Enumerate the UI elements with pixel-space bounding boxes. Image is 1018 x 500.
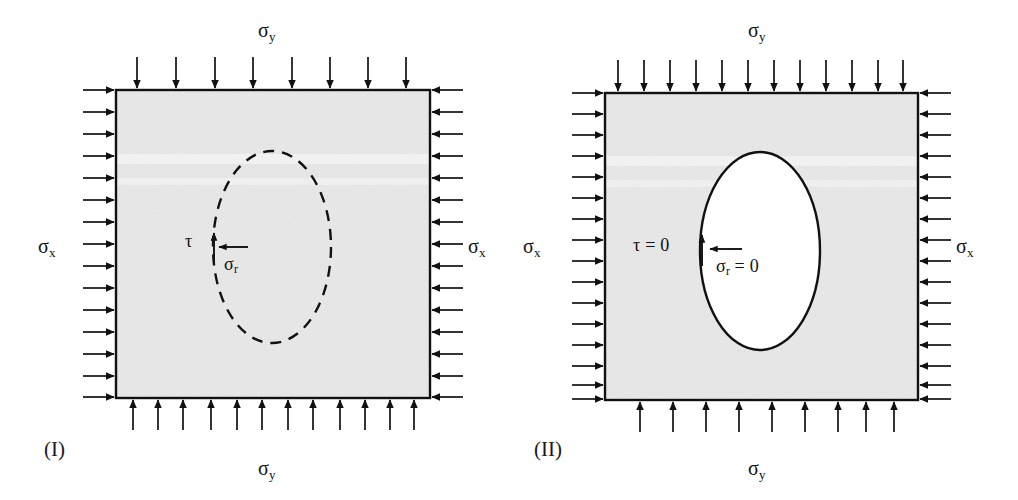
tau-symbol: τ — [185, 231, 192, 251]
sigma-symbol: σ — [716, 256, 726, 276]
sigma-symbol: σ — [38, 235, 49, 257]
panel-II-sigma-x-right-label: σx — [956, 235, 973, 261]
panel-I-top-arrows — [137, 57, 406, 88]
sigma-subscript: x — [534, 245, 541, 260]
panel-I — [83, 57, 463, 430]
sigma-subscript: x — [967, 245, 974, 260]
tau-symbol: τ = 0 — [633, 235, 669, 255]
sigma-r-value: = 0 — [730, 256, 759, 276]
figure-canvas — [0, 0, 1018, 500]
sigma-subscript: r — [234, 262, 238, 276]
panel-II-hole — [700, 152, 820, 350]
panel-II-caption: (II) — [534, 437, 562, 462]
panel-II — [572, 60, 951, 432]
panel-II-sigma-x-left-label: σx — [523, 235, 540, 261]
sigma-symbol: σ — [224, 254, 234, 274]
sigma-symbol: σ — [523, 235, 534, 257]
sigma-subscript: y — [269, 467, 276, 482]
panel-II-tau-label: τ = 0 — [633, 235, 669, 256]
sigma-subscript: x — [479, 245, 486, 260]
scan-band — [116, 154, 430, 164]
panel-II-sigma-r-label: σr = 0 — [716, 256, 759, 279]
sigma-symbol: σ — [956, 235, 967, 257]
panel-II-sigma-y-top-label: σy — [748, 19, 765, 45]
sigma-subscript: y — [759, 29, 766, 44]
panel-I-caption: (I) — [44, 437, 65, 462]
panel-II-left-arrows — [572, 93, 603, 399]
panel-II-bottom-arrows — [640, 402, 894, 432]
panel-I-bottom-arrows — [133, 400, 414, 430]
panel-I-left-arrows — [83, 90, 114, 397]
sigma-subscript: y — [269, 29, 276, 44]
panel-II-top-arrows — [618, 60, 903, 91]
panel-II-sigma-y-bottom-label: σy — [748, 457, 765, 483]
panel-I-right-arrows — [432, 90, 463, 397]
sigma-symbol: σ — [258, 19, 269, 41]
sigma-symbol: σ — [748, 19, 759, 41]
stress-superposition-figure: σy σy σx σx τ σr (I) σy σy σx σx τ = 0 σ… — [0, 0, 1018, 500]
panel-I-sigma-x-right-label: σx — [468, 235, 485, 261]
panel-II-right-arrows — [920, 93, 951, 399]
panel-I-sigma-x-left-label: σx — [38, 235, 55, 261]
panel-I-sigma-y-bottom-label: σy — [258, 457, 275, 483]
panel-I-sigma-y-top-label: σy — [258, 19, 275, 45]
panel-I-tau-label: τ — [185, 231, 192, 252]
sigma-subscript: y — [759, 467, 766, 482]
sigma-symbol: σ — [468, 235, 479, 257]
sigma-symbol: σ — [748, 457, 759, 479]
sigma-subscript: x — [49, 245, 56, 260]
panel-I-plate-texture — [116, 90, 430, 398]
scan-band — [116, 178, 430, 185]
sigma-symbol: σ — [258, 457, 269, 479]
panel-I-sigma-r-label: σr — [224, 254, 238, 277]
